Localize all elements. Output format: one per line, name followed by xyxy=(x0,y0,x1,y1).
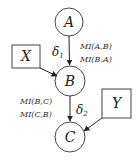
node-b: B xyxy=(55,66,85,96)
delta-1-symbol: δ1 xyxy=(52,45,64,60)
mi-c-b-label: MI(C,B) xyxy=(19,110,52,119)
node-b-label: B xyxy=(64,73,75,89)
edge-x-to-b xyxy=(40,68,57,76)
edge-y-to-c xyxy=(84,118,102,131)
node-a: A xyxy=(55,8,83,36)
node-c: C xyxy=(55,122,85,152)
mi-b-c-label: MI(B,C) xyxy=(19,97,52,106)
mi-a-b-label: MI(A,B) xyxy=(79,42,112,51)
box-y: Y xyxy=(102,89,131,118)
box-x-label: X xyxy=(20,48,32,64)
box-x: X xyxy=(12,45,40,68)
delta-2-symbol: δ2 xyxy=(76,103,88,118)
node-c-label: C xyxy=(65,129,76,145)
edge-a-to-b: δ1 MI(A,B) MI(B,A) xyxy=(52,36,112,65)
node-a-label: A xyxy=(62,14,74,30)
edge-b-to-c: δ2 MI(B,C) MI(C,B) xyxy=(19,96,88,121)
diagram-canvas: A B C X Y δ1 MI(A,B) MI(B,A) δ2 MI(B,C) … xyxy=(0,0,139,161)
mi-b-a-label: MI(B,A) xyxy=(79,55,112,64)
